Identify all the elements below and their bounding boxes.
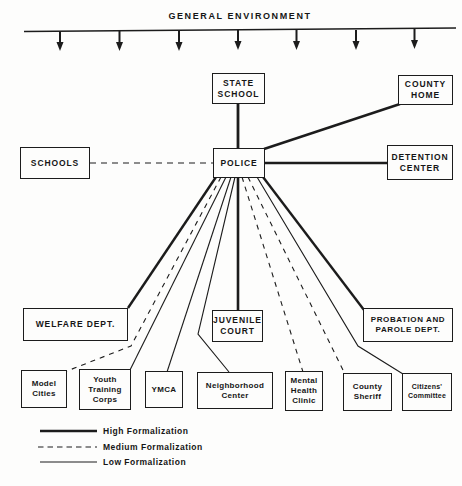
down-arrow-icon xyxy=(116,31,123,51)
node-youth-training-corps: Youth Training Corps xyxy=(79,369,131,410)
edge-police-probation-parole xyxy=(263,177,364,310)
org-network-diagram: GENERAL ENVIRONMENT STATE SCHOOL COUNTY … xyxy=(0,0,462,486)
environment-arrows xyxy=(57,29,419,51)
edge-police-welfare-dept xyxy=(128,177,216,308)
down-arrow-icon xyxy=(176,31,183,51)
node-model-cities: Model Cities xyxy=(21,370,67,408)
edge-police-citizens-committee xyxy=(257,177,403,374)
edge-police-county-home xyxy=(264,104,400,149)
down-arrow-icon xyxy=(57,31,64,51)
edge-police-neighborhood xyxy=(198,177,235,372)
node-probation-parole: PROBATION AND PAROLE DEPT. xyxy=(363,308,453,342)
node-welfare-dept: WELFARE DEPT. xyxy=(23,308,128,341)
down-arrow-icon xyxy=(235,30,242,50)
node-juvenile-court: JUVENILE COURT xyxy=(212,310,263,342)
node-police: POLICE xyxy=(213,148,265,178)
legend-label-high: High Formalization xyxy=(103,426,189,436)
node-ymca: YMCA xyxy=(145,371,183,408)
node-state-school: STATE SCHOOL xyxy=(212,73,265,104)
legend-label-low: Low Formalization xyxy=(103,457,186,467)
down-arrow-icon xyxy=(411,29,418,49)
edge-police-county-sheriff xyxy=(248,177,345,374)
node-county-sheriff: County Sheriff xyxy=(343,373,392,411)
edge-police-ymca xyxy=(167,177,231,372)
node-schools: SCHOOLS xyxy=(20,147,90,179)
environment-title: GENERAL ENVIRONMENT xyxy=(150,11,330,21)
down-arrow-icon xyxy=(353,30,360,50)
legend-label-medium: Medium Formalization xyxy=(103,442,203,452)
environment-line xyxy=(24,28,456,32)
node-neighborhood-center: Neighborhood Center xyxy=(197,372,273,409)
edge-police-mental-health xyxy=(242,177,303,372)
node-county-home: COUNTY HOME xyxy=(398,75,453,105)
node-detention-center: DETENTION CENTER xyxy=(387,145,453,180)
node-citizens-committee: Citizens' Committee xyxy=(402,373,452,411)
down-arrow-icon xyxy=(293,30,300,50)
node-mental-health-clinic: Mental Health Clinic xyxy=(285,371,323,411)
